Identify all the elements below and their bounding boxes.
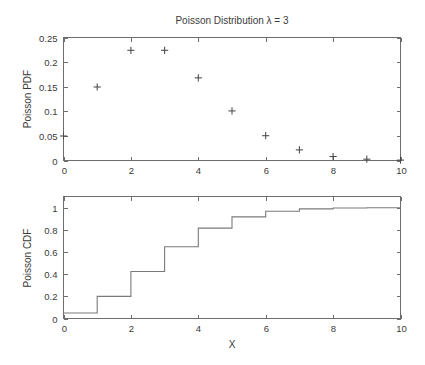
pdf-x-tick-label: 2 (129, 165, 134, 176)
pdf-marker-point (228, 107, 235, 114)
cdf-x-tick-label: 8 (331, 323, 336, 334)
cdf-x-ticks (65, 197, 402, 319)
cdf-x-tick-label: 10 (396, 323, 407, 334)
pdf-x-tick-label: 4 (196, 165, 201, 176)
pdf-y-tick-labels: 00.050.10.150.20.25 (39, 33, 58, 167)
pdf-x-tick-labels: 0246810 (62, 165, 407, 176)
pdf-y-tick-label: 0.15 (39, 82, 58, 93)
cdf-subplot: 00.20.40.60.81 0246810 Poisson CDF X (22, 197, 407, 351)
cdf-y-tick-label: 1 (52, 203, 57, 214)
pdf-y-tick-label: 0.25 (39, 33, 58, 44)
cdf-y-tick-label: 0.4 (44, 269, 57, 280)
figure-canvas: Poisson Distribution λ = 3 00.050.10.150… (0, 0, 425, 365)
chart-title: Poisson Distribution λ = 3 (175, 15, 289, 26)
pdf-y-tick-label: 0.2 (44, 57, 57, 68)
cdf-y-tick-label: 0.6 (44, 247, 57, 258)
pdf-marker-point (296, 146, 303, 153)
cdf-x-tick-label: 0 (62, 323, 67, 334)
pdf-x-tick-label: 8 (331, 165, 336, 176)
x-axis-label: X (229, 339, 236, 350)
pdf-y-ticks (64, 39, 401, 162)
cdf-x-tick-label: 6 (264, 323, 269, 334)
cdf-y-axis-label: Poisson CDF (22, 229, 33, 288)
pdf-marker-point (60, 132, 67, 139)
cdf-y-tick-label: 0 (52, 314, 57, 325)
cdf-y-tick-labels: 00.20.40.60.81 (44, 203, 57, 325)
pdf-data-markers (60, 47, 404, 164)
pdf-marker-point (161, 47, 168, 54)
pdf-marker-point (94, 83, 101, 90)
cdf-step-line (64, 208, 401, 313)
cdf-x-tick-labels: 0246810 (62, 323, 407, 334)
pdf-x-tick-label: 10 (396, 165, 407, 176)
pdf-subplot: 00.050.10.150.20.25 0246810 Poisson PDF (22, 33, 407, 176)
cdf-y-tick-label: 0.8 (44, 225, 57, 236)
pdf-marker-point (363, 156, 370, 163)
cdf-axes-box (64, 197, 401, 319)
poisson-figure: Poisson Distribution λ = 3 00.050.10.150… (0, 0, 425, 365)
pdf-axes-box (64, 38, 401, 161)
pdf-y-tick-label: 0 (52, 156, 57, 167)
pdf-marker-point (397, 157, 404, 164)
cdf-y-tick-label: 0.2 (44, 291, 57, 302)
pdf-y-tick-label: 0.05 (39, 131, 58, 142)
pdf-marker-point (195, 74, 202, 81)
pdf-marker-point (127, 47, 134, 54)
pdf-x-tick-label: 0 (62, 165, 67, 176)
pdf-x-tick-label: 6 (264, 165, 269, 176)
pdf-x-ticks (65, 38, 402, 161)
pdf-y-tick-label: 0.1 (44, 106, 57, 117)
pdf-y-axis-label: Poisson PDF (22, 70, 33, 128)
cdf-x-tick-label: 4 (196, 323, 201, 334)
pdf-marker-point (262, 132, 269, 139)
cdf-x-tick-label: 2 (129, 323, 134, 334)
pdf-marker-point (330, 153, 337, 160)
